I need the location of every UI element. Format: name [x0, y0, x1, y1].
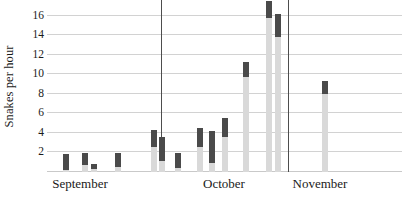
bar-range-segment: [91, 164, 97, 169]
bar: [222, 118, 228, 172]
y-axis-tick-label: 8: [4, 88, 44, 100]
bar-range-segment: [63, 154, 69, 170]
gridline: [47, 112, 402, 113]
y-axis-tick-label: 10: [4, 69, 44, 81]
bar-range-segment: [222, 118, 228, 137]
bar: [243, 62, 249, 172]
bar-range-segment: [151, 130, 157, 147]
bar: [209, 131, 215, 172]
bar-range-segment: [115, 153, 121, 167]
y-axis-tick-label: 14: [4, 29, 44, 41]
gridline: [47, 15, 402, 16]
month-label-september: September: [20, 176, 140, 192]
bar-range-segment: [275, 14, 281, 37]
bar: [322, 81, 328, 172]
chart-container: Snakes per hour 246810121416 SeptemberOc…: [0, 0, 402, 204]
plot-area: 246810121416: [47, 0, 402, 172]
bar-range-segment: [82, 153, 88, 165]
bar: [266, 1, 272, 172]
y-axis-tick-label: 12: [4, 49, 44, 61]
bar-range-segment: [175, 153, 181, 168]
bar: [63, 154, 69, 172]
bar-range-segment: [243, 62, 249, 78]
bar: [82, 153, 88, 172]
gridline: [47, 34, 402, 35]
month-label-november: November: [260, 176, 380, 192]
bar: [175, 153, 181, 172]
bar-range-segment: [197, 128, 203, 147]
bar: [151, 130, 157, 172]
bar-range-segment: [322, 81, 328, 94]
month-separator-line: [288, 0, 289, 172]
bar: [115, 153, 121, 172]
gridline: [47, 54, 402, 55]
gridline: [47, 73, 402, 74]
y-axis-tick-label: 16: [4, 10, 44, 22]
bar: [91, 164, 97, 172]
gridline: [47, 93, 402, 94]
bar-range-segment: [159, 137, 165, 161]
bar: [275, 14, 281, 172]
y-axis-tick-label: 2: [4, 147, 44, 159]
bar: [197, 128, 203, 172]
bar: [159, 137, 165, 172]
bar-range-segment: [266, 1, 272, 18]
y-axis-tick-label: 6: [4, 108, 44, 120]
y-axis-tick-label: 4: [4, 127, 44, 139]
bar-range-segment: [209, 131, 215, 163]
